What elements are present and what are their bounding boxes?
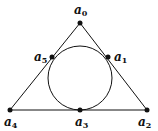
label-a3: a3 bbox=[75, 115, 89, 130]
label-a1: a1 bbox=[114, 50, 127, 65]
triangle-incircle-diagram: a0a1a2a3a4a5 bbox=[0, 0, 158, 131]
point-a3 bbox=[78, 108, 83, 113]
triangle bbox=[10, 23, 147, 110]
label-a4: a4 bbox=[4, 115, 18, 130]
incircle bbox=[48, 46, 112, 110]
label-a2: a2 bbox=[138, 115, 151, 130]
point-a1 bbox=[106, 55, 111, 60]
point-a2 bbox=[145, 108, 150, 113]
point-a4 bbox=[8, 108, 13, 113]
point-a5 bbox=[50, 55, 55, 60]
label-a5: a5 bbox=[34, 50, 47, 65]
point-a0 bbox=[78, 21, 83, 26]
label-a0: a0 bbox=[74, 3, 88, 18]
